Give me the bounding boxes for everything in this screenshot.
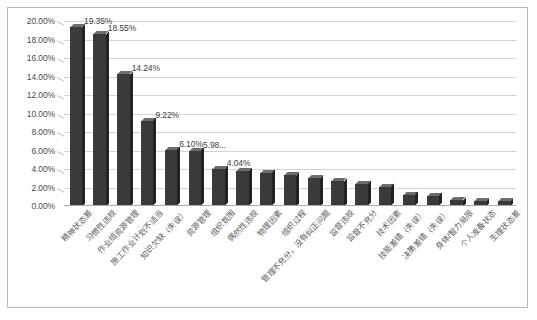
bar [70,27,82,206]
bar-face [93,34,105,206]
gridline [64,40,516,41]
bar [93,34,105,206]
y-axis-tick-label: 10.00% [27,109,55,119]
bar-face [70,27,82,206]
bar-value-label: 18.55% [108,23,136,33]
y-axis-tick-label: 18.00% [27,35,55,45]
chart-frame: 20.00%18.00%16.00%14.00%12.00%10.00%8.00… [7,7,528,308]
bar-value-label: 14.24% [132,63,160,73]
y-axis-tick-label: 14.00% [27,72,55,82]
gridline [64,58,516,59]
y-axis-tick-label: 12.00% [27,90,55,100]
y-axis-tick-label: 16.00% [27,53,55,63]
x-axis-labels: 精神状态差习惯性违规作业组资源管理施工作业计划不适当知识欠缺（失误）资源管理组织… [64,207,516,315]
bar-value-label: 9.22% [155,110,179,120]
bar-value-label: 5.98... [203,140,226,150]
y-axis-tick-label: 20.00% [27,16,55,26]
y-axis-tick-label: 2.00% [31,183,55,193]
bar-side-face [82,24,85,206]
y-axis-tick-label: 6.00% [31,146,55,156]
gridline [64,21,516,22]
y-axis-tick-label: 8.00% [31,127,55,137]
y-axis-tick-label: 0.00% [31,201,55,211]
y-axis: 20.00%18.00%16.00%14.00%12.00%10.00%8.00… [8,21,60,206]
y-axis-tick-label: 4.00% [31,164,55,174]
bar-side-face [106,31,109,206]
